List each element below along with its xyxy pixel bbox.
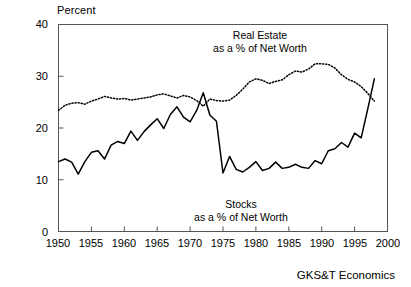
stocks-annotation: Stocks as a % of Net Worth — [176, 198, 306, 223]
y-tick-label-20: 20 — [22, 123, 48, 134]
y-axis-unit-label: Percent — [57, 4, 96, 17]
stocks-annotation-line1: Stocks — [176, 198, 306, 211]
credit-label: GKS&T Economics — [297, 269, 395, 282]
real-estate-annotation: Real Estate as a % of Net Worth — [195, 29, 325, 54]
y-tick-marks — [59, 25, 64, 232]
chart-container: Percent 40 30 20 10 0 1950 1955 1960 196… — [0, 0, 411, 287]
series-line-stocks — [59, 79, 375, 174]
y-tick-label-10: 10 — [22, 175, 48, 186]
y-tick-label-0: 0 — [22, 227, 48, 238]
y-tick-label-30: 30 — [22, 71, 48, 82]
x-tick-label-2000: 2000 — [368, 238, 408, 249]
y-tick-label-40: 40 — [22, 19, 48, 30]
series-line-real-estate — [59, 64, 375, 111]
x-tick-marks — [59, 227, 388, 232]
stocks-annotation-line2: as a % of Net Worth — [176, 211, 306, 224]
real-estate-annotation-line2: as a % of Net Worth — [195, 42, 325, 55]
real-estate-annotation-line1: Real Estate — [195, 29, 325, 42]
